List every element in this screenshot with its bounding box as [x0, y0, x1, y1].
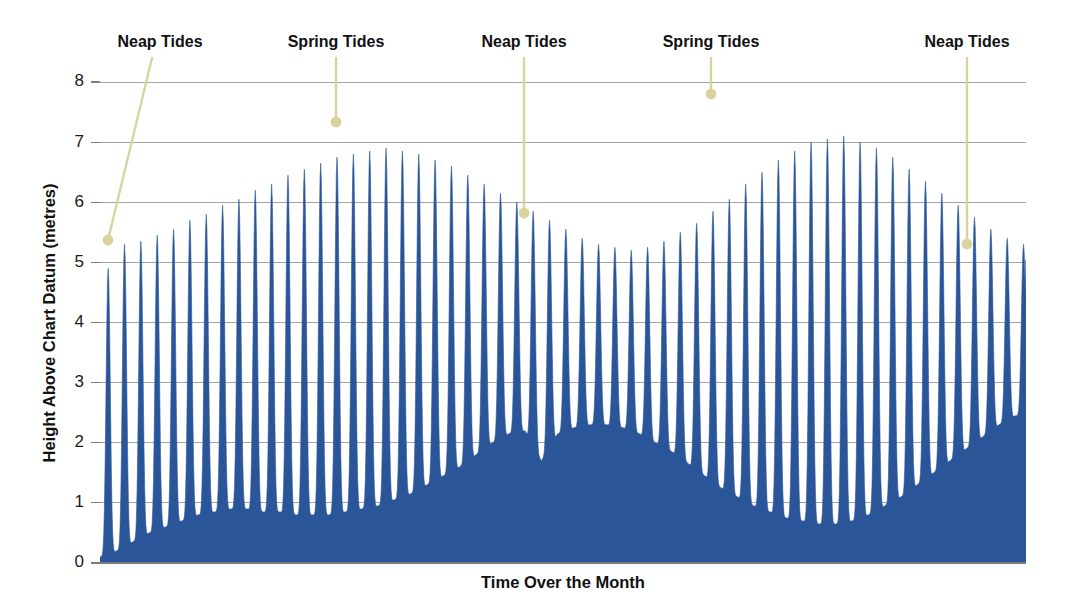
- annotation-neap-tides-2: Neap Tides: [481, 33, 566, 218]
- y-tick-label: 1: [75, 492, 84, 511]
- annotation-dot: [962, 239, 973, 250]
- annotation-spring-tides-3: Spring Tides: [663, 33, 760, 99]
- annotation-label: Neap Tides: [924, 33, 1009, 50]
- tide-area-series: [100, 136, 1026, 563]
- annotation-neap-tides-4: Neap Tides: [924, 33, 1009, 249]
- y-tick-label: 3: [75, 372, 84, 391]
- y-tick-label: 4: [75, 312, 84, 331]
- y-axis-title: Height Above Chart Datum (metres): [40, 183, 58, 462]
- annotation-label: Neap Tides: [117, 33, 202, 50]
- tide-chart-canvas: 012345678 Neap TidesSpring TidesNeap Tid…: [0, 0, 1071, 616]
- annotation-dot: [331, 117, 342, 128]
- annotation-dot: [519, 208, 530, 219]
- y-tick-label: 7: [75, 132, 84, 151]
- annotation-label: Spring Tides: [663, 33, 760, 50]
- y-tick-label: 5: [75, 252, 84, 271]
- annotation-spring-tides-1: Spring Tides: [288, 33, 385, 127]
- annotation-neap-tides-0: Neap Tides: [103, 33, 203, 245]
- y-axis-tick-labels: 012345678: [75, 71, 84, 571]
- annotation-label: Spring Tides: [288, 33, 385, 50]
- tide-area-path: [100, 136, 1026, 563]
- tide-chart-figure: 012345678 Neap TidesSpring TidesNeap Tid…: [0, 0, 1071, 616]
- y-tick-label: 0: [75, 552, 84, 571]
- y-tick-label: 6: [75, 192, 84, 211]
- y-tick-label: 2: [75, 432, 84, 451]
- y-tick-label: 8: [75, 71, 84, 90]
- annotation-leader-line: [108, 58, 152, 240]
- y-axis-tick-marks: [91, 82, 100, 563]
- annotation-dot: [103, 235, 114, 246]
- annotation-label: Neap Tides: [481, 33, 566, 50]
- annotation-dot: [706, 89, 717, 100]
- x-axis-title: Time Over the Month: [481, 573, 645, 591]
